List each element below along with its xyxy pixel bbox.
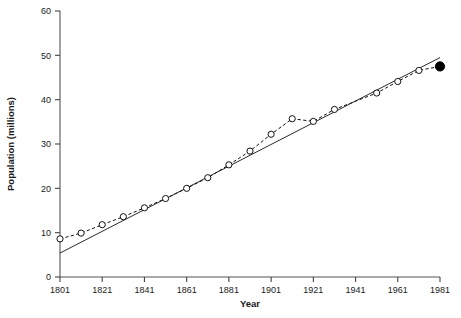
y-tick-label: 30 (41, 139, 51, 149)
latest-estimate-marker (435, 62, 444, 71)
y-tick-label: 50 (41, 51, 51, 61)
linear-trend-line (60, 58, 440, 254)
data-point-open-circle (205, 175, 211, 181)
x-tick-label: 1861 (177, 285, 197, 295)
data-point-open-circle (374, 90, 380, 96)
y-tick-label: 10 (41, 228, 51, 238)
x-tick-label: 1821 (92, 285, 112, 295)
x-axis-tick-labels: 1801182118411861188119011921194119611981 (50, 285, 450, 295)
x-tick-label: 1801 (50, 285, 70, 295)
data-point-open-circle (78, 230, 84, 236)
x-tick-label: 1881 (219, 285, 239, 295)
data-point-open-circle (289, 116, 295, 122)
population-chart-figure: 0102030405060 18011821184118611881190119… (0, 0, 461, 318)
data-point-filled-circle (435, 62, 444, 71)
y-tick-label: 60 (41, 6, 51, 16)
x-tick-label: 1961 (388, 285, 408, 295)
data-point-open-circle (331, 106, 337, 112)
y-tick-label: 0 (46, 272, 51, 282)
data-point-open-circle (120, 214, 126, 220)
data-point-open-circle (416, 67, 422, 73)
y-tick-label: 40 (41, 95, 51, 105)
y-axis-tick-labels: 0102030405060 (41, 6, 51, 282)
x-tick-label: 1941 (346, 285, 366, 295)
x-tick-label: 1901 (261, 285, 281, 295)
data-point-open-circle (162, 195, 168, 201)
x-tick-label: 1841 (134, 285, 154, 295)
data-point-open-circle (247, 148, 253, 154)
x-tick-label: 1921 (303, 285, 323, 295)
census-data-markers (57, 67, 422, 242)
data-point-open-circle (310, 118, 316, 124)
data-point-open-circle (141, 205, 147, 211)
y-tick-label: 20 (41, 184, 51, 194)
data-point-open-circle (395, 78, 401, 84)
data-point-open-circle (57, 236, 63, 242)
chart-canvas: 0102030405060 18011821184118611881190119… (0, 0, 461, 318)
x-axis-title: Year (240, 298, 260, 309)
data-point-open-circle (99, 222, 105, 228)
x-axis-ticks (60, 277, 440, 282)
y-axis-title: Population (millions) (5, 97, 16, 191)
data-point-open-circle (226, 162, 232, 168)
x-tick-label: 1981 (430, 285, 450, 295)
data-point-open-circle (268, 131, 274, 137)
data-point-open-circle (184, 185, 190, 191)
